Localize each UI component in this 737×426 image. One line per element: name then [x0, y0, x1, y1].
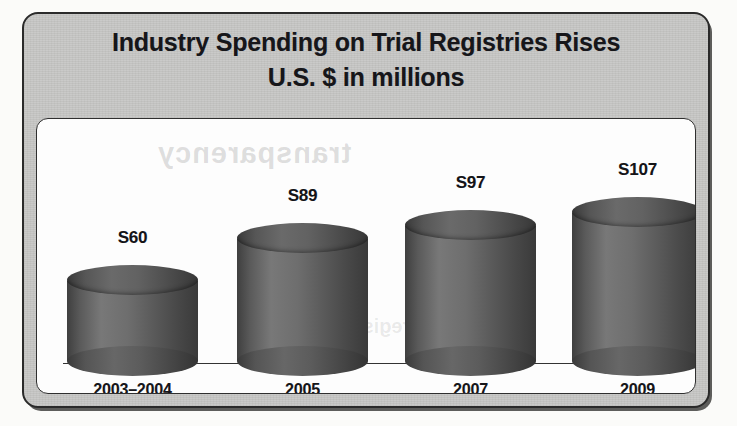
cylinder-body — [405, 226, 536, 361]
bar-cylinder: S107 — [572, 198, 696, 361]
bar-value-label: S107 — [572, 160, 696, 180]
bar-value-label: S60 — [67, 228, 198, 248]
category-label: 2005 — [237, 381, 368, 394]
cylinder-bottom-cap — [405, 346, 536, 376]
cylinder-bottom-cap — [237, 346, 368, 376]
cylinder-bottom-cap — [572, 346, 696, 376]
plot-panel: transparency the registry S60 S89 S97 S1… — [36, 118, 696, 394]
chart-subtitle: U.S. $ in millions — [24, 63, 708, 93]
cylinder-top-cap — [405, 210, 536, 240]
cylinder-bottom-cap — [67, 346, 198, 376]
cylinder-top-cap — [237, 223, 368, 253]
cylinder-top-cap — [572, 197, 696, 227]
chart-title: Industry Spending on Trial Registries Ri… — [24, 28, 708, 58]
category-label: 2007 — [405, 381, 536, 394]
chart-title-block: Industry Spending on Trial Registries Ri… — [24, 28, 708, 92]
figure-frame: Industry Spending on Trial Registries Ri… — [22, 12, 710, 408]
cylinder-body — [237, 239, 368, 361]
cylinder-top-cap — [67, 265, 198, 295]
bar-cylinder: S97 — [405, 211, 536, 361]
bar-value-label: S89 — [237, 186, 368, 206]
category-label: 2003–2004 — [67, 381, 198, 394]
bar-cylinder: S60 — [67, 266, 198, 361]
bar-cylinder: S89 — [237, 224, 368, 361]
cylinder-body — [572, 213, 696, 361]
bar-value-label: S97 — [405, 173, 536, 193]
bleed-through-artifact: transparency — [157, 137, 351, 170]
category-label: 2009 — [572, 381, 696, 394]
